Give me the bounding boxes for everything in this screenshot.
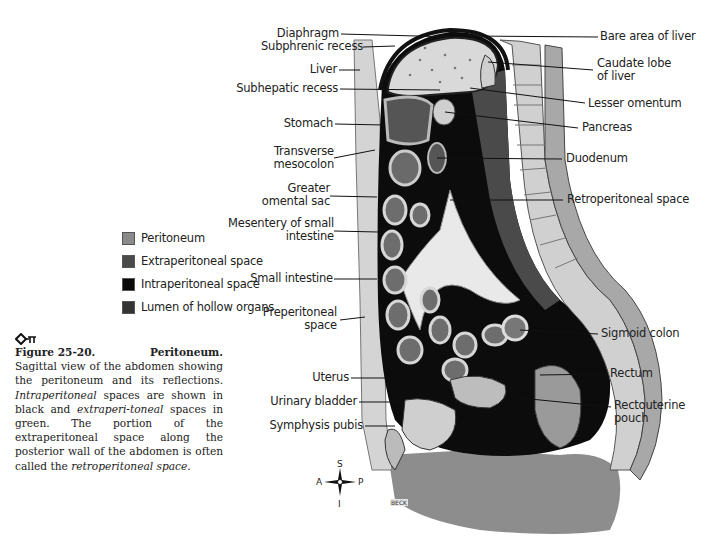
legend-swatch	[122, 301, 135, 314]
legend-label: Lumen of hollow organs	[141, 300, 274, 314]
label-symphysis-pubis: Symphysis pubis	[269, 419, 363, 432]
label-urinary-bladder: Urinary bladder	[270, 395, 357, 408]
artist-signature: BECK	[390, 499, 408, 506]
legend-item-intraperitoneal: Intraperitoneal space	[122, 274, 274, 294]
caption-text: Sagittal view of the abdomen showing the…	[15, 360, 223, 386]
legend-item-peritoneum: Peritoneum	[122, 228, 274, 248]
sigmoid-colon	[503, 316, 527, 340]
compass-anterior: A	[316, 477, 322, 487]
legend-swatch	[122, 278, 135, 291]
label-bare-area-of-liver: Bare area of liver	[600, 30, 696, 43]
figure-number: Figure 25-20.	[15, 345, 95, 359]
legend: Peritoneum Extraperitoneal space Intrape…	[122, 228, 274, 320]
figure-title: Peritoneum.	[150, 345, 223, 359]
pelvic-soft-tissue	[388, 450, 620, 534]
compass-inferior: I	[338, 499, 341, 509]
label-transverse-mesocolon: Transverse mesocolon	[274, 145, 334, 171]
label-caudate-lobe: Caudate lobe of liver	[597, 57, 671, 83]
label-liver: Liver	[310, 63, 337, 76]
label-duodenum: Duodenum	[566, 152, 628, 165]
legend-label: Extraperitoneal space	[141, 254, 263, 268]
legend-label: Peritoneum	[141, 231, 205, 245]
label-lesser-omentum: Lesser omentum	[588, 97, 682, 110]
legend-swatch	[122, 255, 135, 268]
transverse-colon	[390, 151, 420, 185]
label-pancreas: Pancreas	[582, 121, 632, 134]
caption-italic-term: Intraperitoneal	[15, 389, 97, 401]
pancreas	[433, 99, 455, 125]
figure-caption: Figure 25-20. Peritoneum. Sagittal view …	[15, 345, 223, 473]
legend-label: Intraperitoneal space	[141, 277, 260, 291]
caption-text: .	[187, 460, 190, 472]
legend-item-extraperitoneal: Extraperitoneal space	[122, 251, 274, 271]
label-subphrenic-recess: Subphrenic recess	[261, 40, 363, 53]
label-subhepatic-recess: Subhepatic recess	[236, 82, 338, 95]
caption-heading: Figure 25-20. Peritoneum.	[15, 345, 223, 359]
label-rectum: Rectum	[610, 367, 653, 380]
label-sigmoid-colon: Sigmoid colon	[601, 327, 679, 340]
label-rectouterine-pouch: Rectouterine pouch	[614, 399, 685, 425]
caption-italic-term: retroperitoneal space	[71, 460, 187, 472]
stomach	[385, 97, 432, 144]
legend-item-lumen: Lumen of hollow organs	[122, 297, 274, 317]
legend-swatch	[122, 232, 135, 245]
caption-italic-term: extraperi-toneal	[77, 403, 163, 415]
label-greater-omental-sac: Greater omental sac	[262, 182, 330, 208]
label-retroperitoneal-space: Retroperitoneal space	[567, 193, 689, 206]
compass-posterior: P	[358, 477, 363, 487]
compass-rose-icon	[324, 468, 356, 496]
label-stomach: Stomach	[284, 117, 333, 130]
compass-superior: S	[337, 459, 343, 469]
caption-body: Sagittal view of the abdomen showing the…	[15, 359, 223, 473]
label-uterus: Uterus	[312, 371, 349, 384]
